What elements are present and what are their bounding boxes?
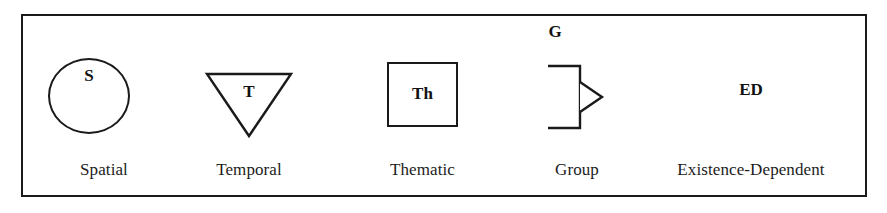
temporal-abbr: T	[185, 82, 313, 102]
legend-label-group: Group	[524, 160, 630, 180]
group-abbr: G	[530, 22, 580, 42]
bracket-arrow-icon	[546, 44, 608, 136]
legend-label-thematic: Thematic	[357, 160, 488, 180]
spatial-symbol-area: S	[21, 14, 187, 156]
existence-dependent-abbr: ED	[638, 80, 864, 100]
thematic-abbr: Th	[357, 84, 488, 104]
legend-item-existence-dependent: ED Existence-Dependent	[638, 14, 864, 197]
temporal-symbol-area: T	[185, 14, 313, 156]
legend-label-temporal: Temporal	[185, 160, 313, 180]
legend-item-group: G Group	[524, 14, 630, 197]
existence-dependent-symbol-area: ED	[638, 14, 864, 156]
thematic-symbol-area: Th	[357, 14, 488, 156]
notation-legend-figure: S Spatial T Temporal Th Thematic G	[0, 0, 887, 213]
legend-item-thematic: Th Thematic	[357, 14, 488, 197]
legend-item-spatial: S Spatial	[21, 14, 187, 197]
group-symbol-area: G	[524, 14, 630, 156]
legend-label-existence-dependent: Existence-Dependent	[638, 160, 864, 180]
legend-label-spatial: Spatial	[21, 160, 187, 180]
spatial-abbr: S	[21, 66, 157, 86]
legend-item-temporal: T Temporal	[185, 14, 313, 197]
